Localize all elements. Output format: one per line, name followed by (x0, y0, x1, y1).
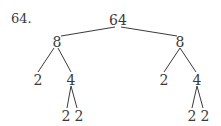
tree-leaf-node: 2 (62, 109, 71, 123)
tree-leaf-node: 2 (75, 109, 84, 123)
tree-leaf-node: 2 (188, 109, 197, 123)
tree-node-left-4: 4 (67, 73, 76, 87)
tree-root-node: 64 (109, 13, 127, 27)
tree-node-left-2: 2 (34, 73, 43, 87)
tree-node-left-8: 8 (53, 35, 62, 49)
tree-node-right-8: 8 (176, 35, 185, 49)
tree-node-right-2: 2 (160, 73, 169, 87)
tree-leaf-node: 2 (201, 109, 210, 123)
tree-node-right-4: 4 (193, 73, 202, 87)
